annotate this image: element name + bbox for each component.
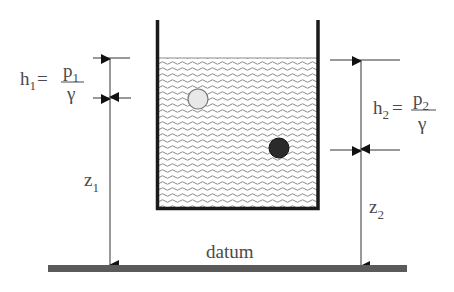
gamma1-label: γ [66,83,75,104]
z2-label: z2 [369,196,384,222]
water-body [159,58,317,207]
light-particle [188,89,208,109]
p1-label: p1 [63,60,79,85]
hydrostatic-head-diagram: h1= p1 γ h2= p2 γ z1 z2 datum [0,0,454,292]
datum-bar [48,265,407,272]
dark-particle [269,138,289,158]
z1-label: z1 [84,169,99,195]
p2-label: p2 [413,88,429,113]
datum-label: datum [206,241,254,262]
h1-label: h1= [20,68,48,93]
h2-label: h2= [373,97,403,122]
gamma2-label: γ [417,113,426,134]
